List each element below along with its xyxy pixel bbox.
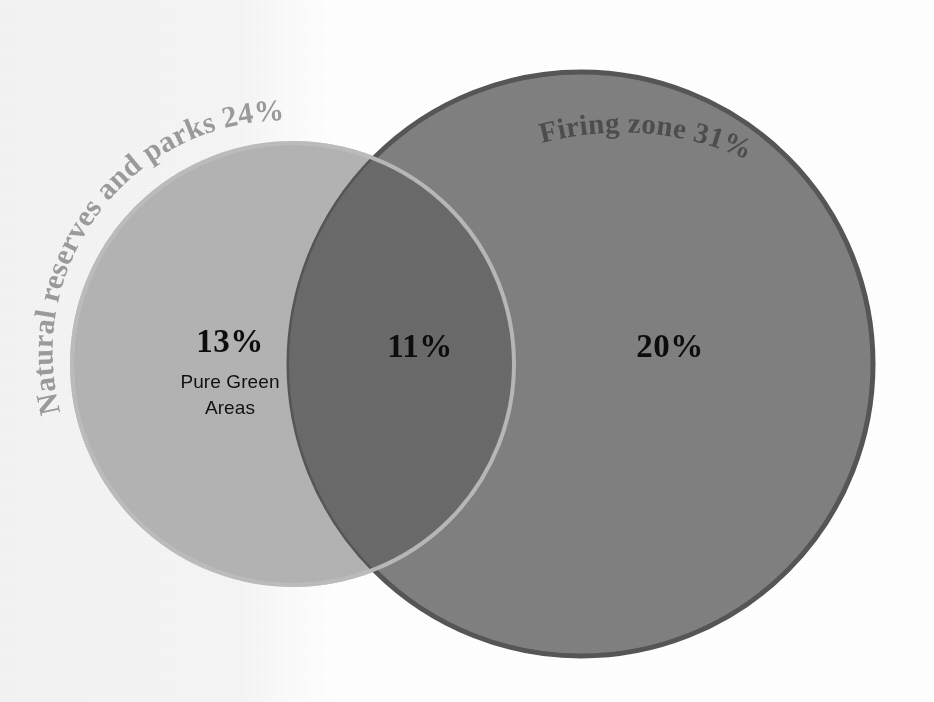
venn-diagram-canvas: Natural reserves and parks 24% Firing zo…	[0, 0, 934, 702]
left-only-percent: 13%	[140, 325, 320, 358]
right-only-percent: 20%	[580, 330, 760, 363]
left-only-caption: Pure Green Areas	[140, 369, 320, 420]
intersection-value-label: 11%	[330, 330, 510, 363]
left-only-caption-line-2: Areas	[140, 395, 320, 421]
right-only-value-label: 20%	[580, 330, 760, 363]
left-only-value-label: 13% Pure Green Areas	[140, 325, 320, 420]
intersection-percent: 11%	[330, 330, 510, 363]
left-only-caption-line-1: Pure Green	[140, 369, 320, 395]
